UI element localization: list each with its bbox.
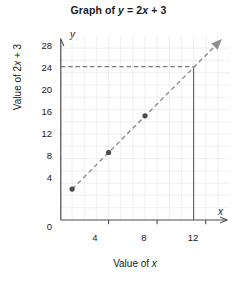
x-tick-label: 4 <box>85 233 105 243</box>
y-axis <box>60 40 61 220</box>
x-axis-title-var: x <box>152 258 157 269</box>
x-tick-label: 12 <box>183 233 203 243</box>
chart-title-equals: = 2 <box>124 4 142 16</box>
y-tick-label: 20 <box>26 85 52 95</box>
data-point <box>106 150 111 155</box>
y-axis-title-var: x <box>12 61 23 66</box>
y-tick-label: 24 <box>26 63 52 73</box>
y-axis-title-suffix: + 3 <box>12 44 23 61</box>
y-tick-label: 16 <box>26 107 52 117</box>
y-tick-label: 12 <box>26 129 52 139</box>
data-point <box>70 187 75 192</box>
data-point <box>142 113 147 118</box>
y-tick-label: 4 <box>26 173 52 183</box>
chart-title: Graph of y = 2x + 3 <box>0 4 237 16</box>
x-tick-label: 8 <box>134 233 154 243</box>
y-tick-label: 8 <box>26 151 52 161</box>
chart-title-suffix: + 3 <box>148 4 166 16</box>
x-axis-title: Value of x <box>40 258 230 269</box>
y-axis-title: Value of 2x + 3 <box>12 12 30 142</box>
x-axis <box>61 220 226 224</box>
chart-title-prefix: Graph of <box>71 4 119 16</box>
x-axis-title-prefix: Value of <box>113 258 152 269</box>
chart-root: Graph of y = 2x + 3 Value of 2x + 3 Valu… <box>0 0 237 281</box>
plot-area <box>60 36 230 228</box>
y-tick-label: 0 <box>26 222 52 232</box>
grid-lines <box>60 36 230 220</box>
y-axis-title-prefix: Value of 2 <box>12 66 23 110</box>
y-tick-label: 28 <box>26 41 52 51</box>
